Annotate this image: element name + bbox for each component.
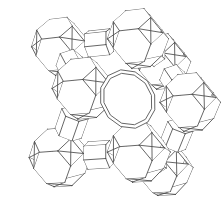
framework-edge — [34, 141, 35, 168]
framework-wireframe-canvas — [0, 0, 221, 204]
zeolite-framework-figure: Zeolite framework wireframe Faujasite (F… — [0, 0, 221, 204]
framework-edge — [36, 30, 37, 56]
polyhedron-face — [84, 145, 106, 160]
